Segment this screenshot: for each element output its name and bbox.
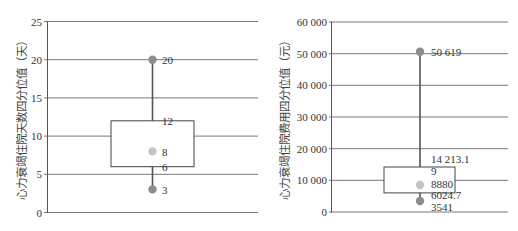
y-tick-labels: 60 000 50 000 40 000 30 000 20 000 10 00… [297, 16, 328, 218]
median-point [148, 147, 156, 155]
median-label: 8880 [431, 178, 454, 190]
q3-label: 12 [162, 115, 173, 127]
y-tick-label: 10 000 [297, 174, 328, 186]
y-tick-label: 30 000 [297, 111, 328, 123]
max-label: 50 619 [431, 46, 462, 58]
y-tick-labels: 25 20 15 10 5 0 [31, 16, 43, 219]
min-label: 3541 [431, 201, 453, 213]
max-point [416, 48, 424, 56]
median-point [416, 181, 424, 189]
gridlines [44, 22, 258, 213]
y-tick-label: 50 000 [297, 48, 328, 60]
min-point [148, 185, 156, 193]
iqr-box [111, 121, 194, 167]
y-tick-label: 40 000 [297, 79, 328, 91]
chart-hospital-days: 心力衰竭住院天数四分位值（天） 25 20 15 10 5 0 [15, 16, 258, 219]
q3-label-line1: 14 213.1 [431, 153, 470, 165]
max-label: 20 [162, 54, 174, 66]
chart-hospital-cost: 心力衰竭住院费用四分位值（元） 60 000 50 000 40 000 30 … [278, 16, 508, 218]
y-tick-label: 60 000 [297, 16, 328, 28]
figure: 心力衰竭住院天数四分位值（天） 25 20 15 10 5 0 [0, 0, 518, 231]
y-axis-label: 心力衰竭住院天数四分位值（天） [15, 35, 29, 200]
min-label: 3 [162, 184, 168, 196]
y-tick-label: 10 [31, 130, 43, 142]
y-tick-label: 0 [37, 207, 43, 219]
y-tick-label: 25 [31, 16, 43, 28]
y-tick-label: 5 [37, 168, 43, 180]
q1-label: 6 [162, 161, 168, 173]
y-axis-label: 心力衰竭住院费用四分位值（元） [278, 35, 292, 200]
y-tick-label: 20 [31, 54, 43, 66]
y-tick-label: 20 000 [297, 143, 328, 155]
q3-label-line2: 9 [431, 165, 437, 177]
q1-label: 6024.7 [431, 189, 462, 201]
y-tick-label: 0 [322, 206, 328, 218]
min-point [416, 197, 424, 205]
y-tick-label: 15 [31, 92, 43, 104]
max-point [148, 56, 156, 64]
median-label: 8 [162, 146, 168, 158]
